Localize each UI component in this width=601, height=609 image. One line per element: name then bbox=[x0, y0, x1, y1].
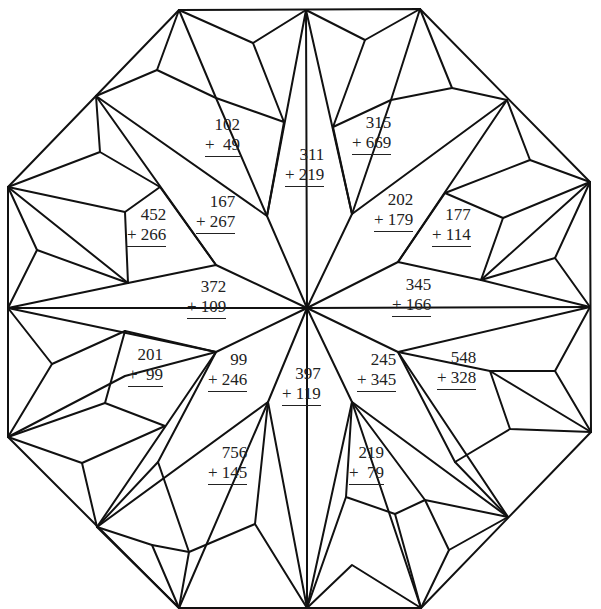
addend-top: 177 bbox=[432, 205, 471, 225]
addition-problem: 245+ 345 bbox=[357, 350, 396, 392]
addition-problem: 548+ 328 bbox=[437, 348, 476, 390]
addend-top: 167 bbox=[196, 192, 235, 212]
addend-bottom: + 145 bbox=[208, 463, 247, 485]
addend-top: 201 bbox=[128, 345, 163, 365]
addend-bottom: + 119 bbox=[282, 384, 321, 406]
addend-bottom: + 114 bbox=[432, 225, 471, 247]
addend-bottom: + 669 bbox=[352, 133, 391, 155]
addition-problem: 452+ 266 bbox=[127, 205, 166, 247]
addend-top: 219 bbox=[349, 443, 384, 463]
addend-top: 245 bbox=[357, 350, 396, 370]
addend-top: 397 bbox=[282, 364, 321, 384]
quilt-pattern bbox=[0, 0, 601, 609]
addition-problem: 345+ 166 bbox=[392, 275, 431, 317]
addend-top: 311 bbox=[285, 145, 324, 165]
addend-bottom: + 219 bbox=[285, 165, 324, 187]
addition-problem: 202+ 179 bbox=[374, 190, 413, 232]
addend-bottom: + 49 bbox=[205, 135, 240, 157]
addend-bottom: + 328 bbox=[437, 368, 476, 390]
addition-problem: 99+ 246 bbox=[208, 350, 247, 392]
addend-top: 548 bbox=[437, 348, 476, 368]
addend-bottom: + 266 bbox=[127, 225, 166, 247]
addition-problem: 315+ 669 bbox=[352, 113, 391, 155]
addend-top: 99 bbox=[208, 350, 247, 370]
addition-problem: 167+ 267 bbox=[196, 192, 235, 234]
addend-top: 756 bbox=[208, 443, 247, 463]
addition-problem: 372+ 109 bbox=[187, 277, 226, 319]
addend-top: 452 bbox=[127, 205, 166, 225]
addition-problem: 756+ 145 bbox=[208, 443, 247, 485]
addend-top: 315 bbox=[352, 113, 391, 133]
addend-top: 202 bbox=[374, 190, 413, 210]
addend-bottom: + 179 bbox=[374, 210, 413, 232]
addition-problem: 201+ 99 bbox=[128, 345, 163, 387]
addition-problem: 219+ 79 bbox=[349, 443, 384, 485]
addend-bottom: + 345 bbox=[357, 370, 396, 392]
addition-problem: 397+ 119 bbox=[282, 364, 321, 406]
addend-bottom: + 99 bbox=[128, 365, 163, 387]
addend-bottom: + 166 bbox=[392, 295, 431, 317]
addition-problem: 311+ 219 bbox=[285, 145, 324, 187]
addend-top: 372 bbox=[187, 277, 226, 297]
addend-top: 345 bbox=[392, 275, 431, 295]
addend-bottom: + 246 bbox=[208, 370, 247, 392]
addition-problem: 177+ 114 bbox=[432, 205, 471, 247]
addend-bottom: + 79 bbox=[349, 463, 384, 485]
addend-bottom: + 267 bbox=[196, 212, 235, 234]
addend-bottom: + 109 bbox=[187, 297, 226, 319]
addend-top: 102 bbox=[205, 115, 240, 135]
addition-problem: 102+ 49 bbox=[205, 115, 240, 157]
